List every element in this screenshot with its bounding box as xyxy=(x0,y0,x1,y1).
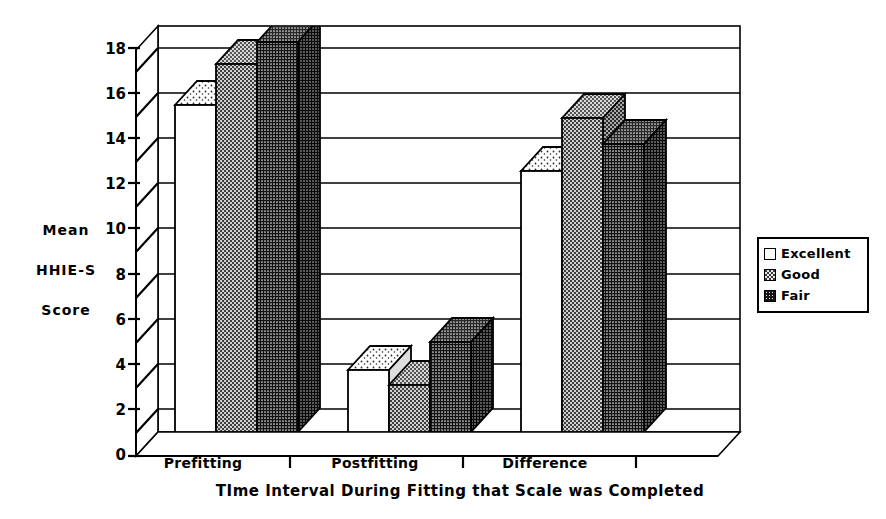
plot-left-wall xyxy=(136,26,158,456)
bar-postfitting-fair xyxy=(430,318,493,432)
plot-area xyxy=(0,0,886,519)
bar-difference-fair xyxy=(603,120,666,432)
legend-item-excellent[interactable]: Excellent xyxy=(764,243,863,264)
legend-swatch-fair-icon xyxy=(764,290,776,302)
legend-label-good: Good xyxy=(781,267,820,282)
legend-label-excellent: Excellent xyxy=(781,246,851,261)
chart-legend: Excellent Good Fair xyxy=(757,237,869,313)
legend-swatch-good-icon xyxy=(764,269,776,281)
chart-container: Mean HHIE-S Score 18 16 14 12 10 8 6 4 2… xyxy=(0,0,886,519)
legend-item-fair[interactable]: Fair xyxy=(764,285,863,306)
legend-label-fair: Fair xyxy=(781,288,810,303)
bar-prefitting-fair xyxy=(257,18,320,432)
x-tick-label-difference: Difference xyxy=(470,455,620,471)
x-axis-title: TIme Interval During Fitting that Scale … xyxy=(110,482,810,500)
bar-group-prefitting xyxy=(175,18,320,432)
legend-item-good[interactable]: Good xyxy=(764,264,863,285)
plot-floor xyxy=(136,432,740,456)
x-tick-label-postfitting: Postfitting xyxy=(300,455,450,471)
x-tick-label-prefitting: Prefitting xyxy=(128,455,278,471)
legend-swatch-excellent-icon xyxy=(764,248,776,260)
